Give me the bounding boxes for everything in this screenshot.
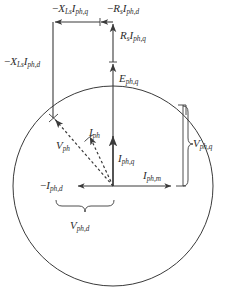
label-neg-rs-iph-d-sym: R bbox=[113, 2, 120, 14]
phasor-diagram: −XLsIph,q −RsIph,d RsIph,q Eph,q −XLsIph… bbox=[0, 0, 229, 302]
label-vph-q-sub: ph,q bbox=[200, 143, 213, 151]
phasor-diagram-canvas bbox=[0, 0, 229, 302]
label-neg-xls-iph-q: −XLsIph,q bbox=[52, 3, 88, 14]
vph-d-brace bbox=[56, 200, 114, 212]
label-neg-xls-iph-q-sub2: ph,q bbox=[75, 8, 88, 16]
label-rs-iph-q-sub2: ph,q bbox=[133, 35, 146, 43]
label-neg-iph-d-sub: ph,d bbox=[50, 185, 63, 193]
label-neg-xls-iph-q-sub: Ls bbox=[65, 8, 72, 16]
label-neg-xls-iph-d-sym: X bbox=[10, 55, 17, 67]
label-vph-q-sym: V bbox=[193, 137, 200, 149]
label-neg-rs-iph-d-sub2: ph,d bbox=[126, 8, 139, 16]
label-eph-q: Eph,q bbox=[119, 73, 138, 84]
label-vph-q: Vph,q bbox=[193, 138, 212, 149]
label-neg-xls-iph-d-sub2: ph,d bbox=[27, 61, 40, 69]
label-neg-rs-iph-d-sub: s bbox=[120, 8, 123, 16]
label-rs-iph-q: RsIph,q bbox=[120, 30, 146, 41]
iph-phasor bbox=[90, 137, 113, 186]
label-iph-sub: ph bbox=[93, 132, 100, 140]
label-iph-m-sub: ph,m bbox=[147, 175, 161, 183]
label-vph-d-sub: ph,d bbox=[77, 225, 90, 233]
label-vph-d-sym: V bbox=[70, 219, 77, 231]
label-vph-sym: V bbox=[56, 139, 63, 151]
label-iph-q: Iph,q bbox=[118, 153, 134, 164]
label-rs-iph-q-sub: s bbox=[127, 35, 130, 43]
label-neg-xls-iph-d-sub: Ls bbox=[17, 61, 24, 69]
vph-phasor bbox=[56, 120, 114, 186]
label-iph-m: Iph,m bbox=[143, 170, 161, 181]
label-neg-iph-d: −Iph,d bbox=[40, 180, 63, 191]
label-vph: Vph bbox=[56, 140, 70, 151]
label-vph-d: Vph,d bbox=[70, 220, 89, 231]
label-neg-xls-iph-q-sym: X bbox=[58, 2, 65, 14]
vph-q-brace bbox=[183, 106, 193, 186]
label-vph-sub: ph bbox=[63, 145, 70, 153]
label-neg-rs-iph-d: −RsIph,d bbox=[107, 3, 139, 14]
label-eph-q-sym: E bbox=[119, 72, 126, 84]
label-iph-q-sub: ph,q bbox=[122, 158, 135, 166]
label-neg-xls-iph-d: −XLsIph,d bbox=[4, 56, 40, 67]
label-iph: Iph bbox=[89, 127, 100, 138]
label-rs-iph-q-sym: R bbox=[120, 29, 127, 41]
label-eph-q-sub: ph,q bbox=[126, 78, 139, 86]
